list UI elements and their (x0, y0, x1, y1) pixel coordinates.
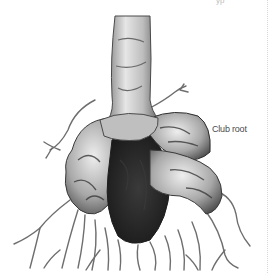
club-root-label: Club root (212, 124, 247, 134)
cropped-caption-fragment: yp (216, 0, 224, 5)
crown-gall (100, 113, 158, 140)
page-edge-divider (267, 0, 269, 273)
tap-root-stem (108, 16, 158, 120)
club-root-illustration: yp Club root (0, 0, 270, 273)
root-drawing (0, 0, 270, 273)
